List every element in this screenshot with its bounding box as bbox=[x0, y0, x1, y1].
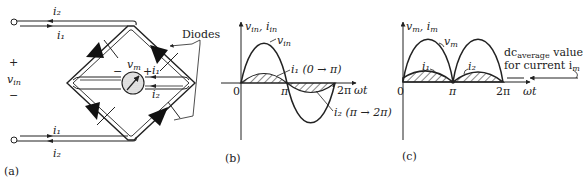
lead-top-current-label-1: i₂ bbox=[53, 5, 61, 18]
diodes-callout bbox=[170, 40, 200, 120]
y-axis-label: vm, im bbox=[406, 20, 438, 34]
top-lead-wire bbox=[17, 21, 136, 26]
meter-icon bbox=[122, 72, 144, 94]
input-plus-sign: + bbox=[9, 56, 18, 69]
input-terminal-bottom bbox=[11, 137, 17, 143]
tick-2pi: 2π bbox=[496, 85, 510, 98]
input-terminal-top bbox=[11, 19, 17, 25]
dc-average-label-line1: dcaverage value bbox=[504, 46, 583, 60]
dc-average-label-line2: for current im bbox=[504, 59, 580, 73]
panel-b-input-waveform: vin, iin vin i₁ (0 → π) i₂ (π → 2π) 0 π … bbox=[221, 20, 392, 165]
i2-curve-label: i₂ (π → 2π) bbox=[334, 106, 392, 119]
diodes-label: Diodes bbox=[182, 28, 221, 41]
i1-curve-label: i₁ bbox=[422, 60, 430, 73]
full-wave-bridge-figure: Diodes i₂ i₁ i₁ i₂ + vin − vm − + i₁ i₂ … bbox=[0, 0, 586, 181]
input-minus-sign: − bbox=[9, 89, 18, 102]
panel-a-caption: (a) bbox=[4, 165, 19, 178]
lead-top-current-label-2: i₁ bbox=[57, 29, 65, 42]
meter-voltage-label: vm bbox=[127, 58, 141, 72]
vin-leader bbox=[270, 39, 276, 42]
vin-curve-label: vin bbox=[277, 34, 291, 48]
tick-pi: π bbox=[448, 85, 457, 98]
panel-b-caption: (b) bbox=[225, 152, 241, 165]
panel-a-bridge-circuit: Diodes i₂ i₁ i₁ i₂ + vin − vm − + i₁ i₂ … bbox=[4, 5, 221, 178]
x-axis-label: ωt bbox=[354, 84, 368, 97]
x-axis-label: ωt bbox=[523, 85, 537, 98]
vm-curve-label: vm bbox=[444, 35, 458, 49]
meter-minus-sign: − bbox=[113, 65, 122, 78]
lead-bottom-current-label-1: i₁ bbox=[53, 124, 61, 137]
bottom-lead-wire bbox=[17, 136, 136, 141]
pi-node bbox=[451, 80, 455, 84]
tick-2pi: 2π bbox=[337, 84, 351, 97]
tick-pi: π bbox=[280, 85, 289, 98]
i1-curve-label: i₁ (0 → π) bbox=[291, 63, 341, 76]
lead-bottom-current-label-2: i₂ bbox=[53, 147, 61, 160]
input-voltage-label: vin bbox=[7, 73, 21, 87]
meter-plus-sign: + bbox=[143, 65, 152, 78]
y-axis-label: vin, iin bbox=[245, 20, 277, 34]
i2-current-region bbox=[287, 83, 335, 93]
i2-current-region bbox=[453, 72, 503, 82]
i2-curve-label: i₂ bbox=[468, 60, 476, 73]
meter-current-label-i1: i₁ bbox=[152, 64, 160, 77]
tick-0: 0 bbox=[233, 85, 240, 98]
panel-c-caption: (c) bbox=[402, 150, 417, 163]
diode-icon-top-left bbox=[86, 40, 118, 58]
panel-c-output-waveform: vm, im vm i₁ i₂ dcaverage value for curr… bbox=[397, 20, 583, 163]
meter-current-label-i2: i₂ bbox=[152, 88, 160, 101]
tick-0: 0 bbox=[397, 85, 404, 98]
